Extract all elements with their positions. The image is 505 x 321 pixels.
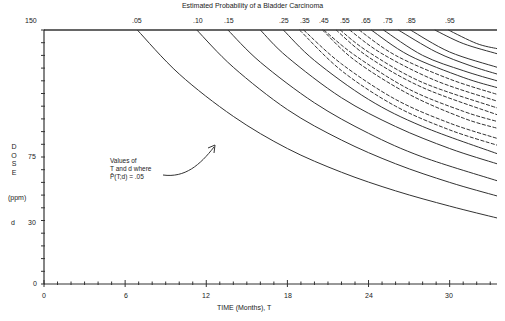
- annotation-arrow: [163, 147, 214, 175]
- y-letter: S: [10, 160, 18, 169]
- contour-label: .45: [319, 17, 329, 24]
- x-tick-label: 30: [445, 292, 453, 299]
- probability-contour-.05: [137, 30, 497, 218]
- contour-label: .85: [406, 17, 416, 24]
- contour-label: .55: [340, 17, 350, 24]
- x-tick-label: 0: [42, 292, 46, 299]
- x-tick-label: 12: [202, 292, 210, 299]
- y-tick-label: 30: [28, 219, 36, 226]
- y-axis-unit: (ppm): [8, 194, 26, 201]
- x-tick-label: 24: [365, 292, 373, 299]
- x-axis-title: TIME (Months), T: [217, 304, 271, 311]
- contour-label: .35: [300, 17, 310, 24]
- arrowhead-icon: [208, 145, 215, 153]
- annotation: Values of T and d where P̂(T;d) = .05: [110, 157, 151, 181]
- probability-contour-.65: [359, 30, 497, 94]
- contour-label: .15: [224, 17, 234, 24]
- y-letter: E: [10, 169, 18, 178]
- probability-contour-.45: [324, 30, 497, 121]
- probability-contour-.75: [383, 30, 497, 81]
- plot-area: [0, 0, 505, 321]
- probability-contour-.95: [448, 30, 497, 49]
- contour-label: .75: [383, 17, 393, 24]
- y-tick-label: 150: [25, 17, 37, 24]
- probability-contour-.60: [350, 30, 497, 101]
- probability-contour-.90: [435, 30, 497, 54]
- y-axis-letters: D O S E: [10, 143, 18, 177]
- contour-label: .25: [279, 17, 289, 24]
- x-tick-label: 6: [124, 292, 128, 299]
- contour-label: .10: [193, 17, 203, 24]
- y-letter: O: [10, 152, 18, 161]
- annotation-line: P̂(T;d) = .05: [110, 173, 151, 181]
- x-tick-label: 18: [284, 292, 292, 299]
- contour-label: .65: [361, 17, 371, 24]
- y-tick-label: 0: [33, 280, 37, 287]
- annotation-line: Values of: [110, 157, 151, 165]
- contour-label: .05: [132, 17, 142, 24]
- y-letter: D: [10, 143, 18, 152]
- y-tick-label: 75: [28, 153, 36, 160]
- annotation-line: T and d where: [110, 165, 151, 173]
- probability-contour-.10: [197, 30, 497, 196]
- contour-label: .95: [445, 17, 455, 24]
- y-axis-symbol: d: [11, 219, 15, 226]
